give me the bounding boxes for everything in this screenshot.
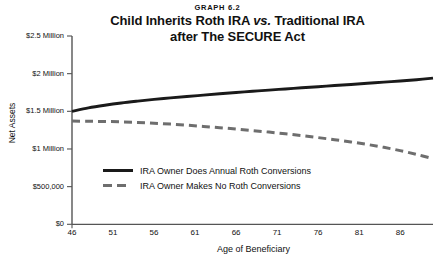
- y-axis-tick-label: $1.5 Million: [26, 106, 64, 115]
- data-series-line-2: [72, 121, 433, 159]
- x-axis-tick-label: 86: [385, 228, 415, 237]
- axes-group: [67, 36, 433, 228]
- chart-title-line2: after The SECURE Act: [170, 29, 305, 44]
- x-axis-tick-label: 76: [303, 228, 333, 237]
- chart-title: Child Inherits Roth IRA vs. Traditional …: [40, 13, 435, 45]
- x-axis-tick-label: 51: [98, 228, 128, 237]
- legend-item-solid: IRA Owner Does Annual Roth Conversions: [103, 163, 311, 178]
- x-axis-label: Age of Beneficiary: [72, 244, 435, 254]
- chart-title-line1-part-b: Traditional IRA: [271, 13, 365, 28]
- chart-title-line1-part-a: Child Inherits Roth IRA: [110, 13, 253, 28]
- legend-swatch-dashed-line-icon: [103, 180, 133, 191]
- y-axis-tick-label: $0: [56, 219, 64, 228]
- y-axis-tick-label: $2 Million: [32, 69, 64, 78]
- x-axis-tick-label: 61: [180, 228, 210, 237]
- legend-label-dashed: IRA Owner Makes No Roth Conversions: [140, 181, 301, 191]
- x-axis-tick-label: 56: [139, 228, 169, 237]
- graph-number-label: GRAPH 6.2: [0, 3, 435, 12]
- x-axis-tick-label: 66: [221, 228, 251, 237]
- x-axis-tick-label: 71: [262, 228, 292, 237]
- data-series-group: [72, 78, 433, 158]
- chart-title-vs: vs.: [253, 13, 271, 28]
- legend-item-dashed: IRA Owner Makes No Roth Conversions: [103, 178, 311, 193]
- y-axis-tick-label: $2.5 Million: [26, 31, 64, 40]
- legend-label-solid: IRA Owner Does Annual Roth Conversions: [140, 166, 311, 176]
- legend-swatch-solid-line-icon: [103, 165, 133, 176]
- chart-figure: GRAPH 6.2 Child Inherits Roth IRA vs. Tr…: [0, 0, 435, 262]
- x-axis-tick-label: 46: [57, 228, 87, 237]
- data-series-line-1: [72, 78, 433, 111]
- y-axis-tick-label: $1 Million: [32, 144, 64, 153]
- chart-legend: IRA Owner Does Annual Roth Conversions I…: [103, 163, 311, 193]
- x-axis-tick-label: 81: [344, 228, 374, 237]
- y-axis-tick-label: $500,000: [33, 182, 64, 191]
- y-axis-ticks: [67, 36, 72, 224]
